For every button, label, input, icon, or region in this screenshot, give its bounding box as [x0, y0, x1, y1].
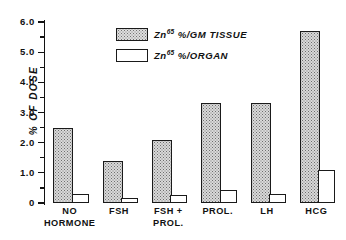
legend-label-tissue-suffix: %/GM TISSUE	[174, 30, 247, 41]
x-axis-label-line1: NO	[62, 206, 77, 216]
legend-swatch-tissue-icon	[116, 28, 148, 41]
y-axis-major-tick	[38, 82, 45, 83]
y-axis-tick-label: 6.0	[0, 16, 35, 27]
bar-chart-figure: % OF DOSE 01.02.03.04.05.06.0 NOHORMONEF…	[0, 0, 346, 240]
bar-organ	[170, 195, 187, 203]
bar-tissue	[300, 31, 320, 203]
x-axis-label-line2: HORMONE	[39, 218, 100, 230]
x-axis-category-label: HCG	[286, 206, 346, 218]
bar-organ	[269, 194, 286, 203]
x-axis-label-line1: FSH +	[154, 206, 183, 216]
bar-tissue	[152, 140, 172, 203]
x-axis-label-line1: LH	[260, 206, 273, 216]
bar-tissue	[201, 103, 221, 203]
legend-entry-organ: Zn65 %/ORGAN	[116, 47, 247, 64]
legend-label-tissue: Zn65 %/GM TISSUE	[154, 28, 247, 40]
y-axis-major-tick	[38, 142, 45, 143]
bar-organ	[220, 190, 237, 203]
y-axis-major-tick	[38, 52, 45, 53]
y-axis-tick-label: 5.0	[0, 46, 35, 57]
legend-swatch-organ-icon	[116, 49, 148, 62]
x-axis-label-line1: PROL.	[202, 206, 233, 216]
bar-organ	[121, 198, 138, 203]
y-axis-tick-label: 2.0	[0, 137, 35, 148]
legend-label-organ: Zn65 %/ORGAN	[154, 49, 228, 61]
legend-label-tissue-prefix: Zn	[154, 30, 167, 41]
x-axis-label-line2: PROL.	[138, 218, 199, 230]
y-axis-major-tick	[38, 21, 45, 22]
y-axis-tick-label: 4.0	[0, 76, 35, 87]
legend-label-organ-suffix: %/ORGAN	[174, 51, 228, 62]
legend-label-organ-prefix: Zn	[154, 51, 167, 62]
bar-tissue	[251, 103, 271, 203]
bar-organ	[72, 194, 89, 203]
x-axis-label-line1: HCG	[305, 206, 327, 216]
x-axis-label-line1: FSH	[109, 206, 129, 216]
bar-tissue	[53, 128, 73, 203]
bar-organ	[318, 170, 335, 203]
y-axis-tick-label: 0	[0, 197, 35, 208]
chart-legend: Zn65 %/GM TISSUE Zn65 %/ORGAN	[116, 26, 247, 68]
y-axis-tick-label: 1.0	[0, 167, 35, 178]
y-axis-major-tick	[38, 172, 45, 173]
legend-entry-tissue: Zn65 %/GM TISSUE	[116, 26, 247, 43]
bar-tissue	[103, 161, 123, 203]
y-axis-major-tick	[38, 202, 45, 203]
y-axis-major-tick	[38, 112, 45, 113]
y-axis-tick-label: 3.0	[0, 107, 35, 118]
